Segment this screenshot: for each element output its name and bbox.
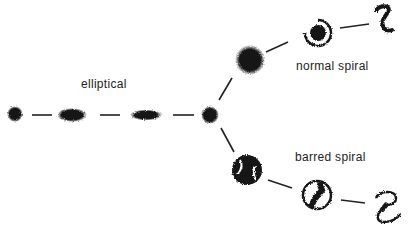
connector-line <box>219 78 232 100</box>
connector-line <box>340 24 369 28</box>
galaxy-sb-icon <box>305 20 331 46</box>
galaxy-sc-icon <box>376 6 392 30</box>
galaxy-sba-icon <box>232 155 262 185</box>
galaxy-sa-icon <box>235 45 265 75</box>
tuning-fork-diagram <box>0 0 411 235</box>
galaxy-e3-icon <box>57 108 87 122</box>
galaxy-s0-icon <box>201 106 219 124</box>
connector-line <box>268 180 292 188</box>
galaxy-sbb-icon <box>303 181 331 209</box>
barred-spiral-galaxies <box>232 155 400 222</box>
galaxy-e5-icon <box>130 110 162 121</box>
normal-spiral-label: normal spiral <box>296 59 369 73</box>
barred-spiral-label: barred spiral <box>295 150 366 164</box>
connector-line <box>266 42 288 52</box>
connector-line <box>221 128 234 152</box>
elliptical-label: elliptical <box>81 77 127 91</box>
galaxy-sbc-icon <box>376 192 400 222</box>
galaxy-e0-icon <box>7 106 23 122</box>
connector-line <box>341 200 365 203</box>
